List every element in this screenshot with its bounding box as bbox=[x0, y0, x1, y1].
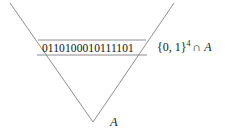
triangle-right-edge bbox=[93, 3, 174, 122]
triangle-left-edge bbox=[10, 3, 93, 122]
set-name-label: A bbox=[203, 40, 211, 54]
set-intersection-label: {0, 1}4∩A bbox=[157, 40, 212, 54]
intersection-operator-icon: ∩ bbox=[191, 40, 204, 54]
triangle-outline bbox=[10, 3, 174, 122]
set-diagram-figure: 0110100010111101 {0, 1}4∩A A bbox=[0, 0, 225, 137]
set-exponent-label: 4 bbox=[187, 39, 191, 48]
triangle-name-label: A bbox=[110, 115, 118, 129]
set-base-label: {0, 1} bbox=[157, 40, 187, 54]
binary-string-label: 0110100010111101 bbox=[42, 42, 134, 55]
